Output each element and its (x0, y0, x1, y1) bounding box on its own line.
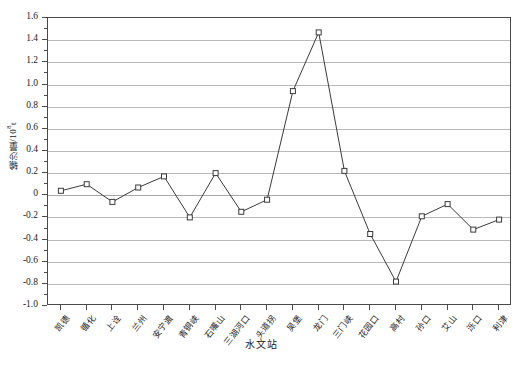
series-line (61, 32, 499, 281)
y-tick-label: 0.4 (26, 143, 38, 156)
data-point-marker (445, 202, 450, 207)
y-axis-minor-tick (0, 95, 47, 96)
chart-container: 输沙量/108t 1.61.41.21.00.80.60.40.20-0.2-0… (0, 0, 522, 367)
x-axis-tick (86, 305, 87, 310)
y-axis-minor-tick (0, 139, 47, 140)
x-axis-tick (215, 305, 216, 310)
y-axis-tick: 0.6 (0, 128, 47, 129)
data-point-marker (471, 227, 476, 232)
x-axis-tick (447, 305, 448, 310)
y-axis-tick: 1.0 (0, 84, 47, 85)
x-axis-label: 孙口 (414, 313, 433, 333)
y-axis-minor-tick (0, 250, 47, 251)
data-point-marker (136, 185, 141, 190)
x-axis-tick (369, 305, 370, 310)
plot-area (47, 17, 511, 305)
x-axis-tick (163, 305, 164, 310)
y-tick-label: 0 (33, 187, 38, 200)
y-axis-tick: 0.8 (0, 106, 47, 107)
y-axis-minor-tick (0, 272, 47, 273)
x-axis-tick (111, 305, 112, 310)
x-axis-tick (292, 305, 293, 310)
y-axis-minor-tick (0, 50, 47, 51)
y-axis-tick: 0.4 (0, 150, 47, 151)
x-axis-tick (137, 305, 138, 310)
x-axis-label: 兰州 (130, 313, 149, 333)
x-axis-tick (395, 305, 396, 310)
y-axis: 1.61.41.21.00.80.60.40.20-0.2-0.4-0.6-0.… (0, 0, 47, 367)
y-axis-tick: 1.6 (0, 17, 47, 18)
y-axis-minor-tick (0, 205, 47, 206)
x-axis-label: 艾山 (440, 313, 459, 333)
y-tick-label: -0.6 (23, 254, 38, 267)
y-tick-label: 1.6 (26, 10, 38, 23)
data-point-marker (110, 199, 115, 204)
y-tick-label: 0.2 (26, 165, 38, 178)
data-point-marker (239, 209, 244, 214)
x-axis-label: 上诠 (104, 313, 123, 333)
x-axis-label: 凯德 (53, 313, 72, 333)
x-axis-tick (343, 305, 344, 310)
y-tick-label: -0.2 (23, 209, 38, 222)
x-axis-tick (60, 305, 61, 310)
data-point-marker (394, 279, 399, 284)
y-axis-minor-tick (0, 228, 47, 229)
y-axis-minor-tick (0, 183, 47, 184)
data-point-marker (497, 217, 502, 222)
y-axis-tick: 0 (0, 194, 47, 195)
y-tick-label: 1.0 (26, 77, 38, 90)
y-axis-tick: 0.2 (0, 172, 47, 173)
data-point-marker (419, 214, 424, 219)
x-axis-tick (498, 305, 499, 310)
y-tick-label: 1.4 (26, 32, 38, 45)
y-axis-minor-tick (0, 28, 47, 29)
x-axis-label: 龙门 (311, 313, 330, 333)
y-tick-label: -0.8 (23, 276, 38, 289)
y-axis-minor-tick (0, 161, 47, 162)
x-axis-label: 泺口 (465, 313, 484, 333)
x-axis-tick (472, 305, 473, 310)
series-markers (58, 30, 501, 284)
x-axis-tick (189, 305, 190, 310)
y-tick-label: -1.0 (23, 298, 38, 311)
y-axis-tick: -0.2 (0, 216, 47, 217)
y-axis-minor-tick (0, 72, 47, 73)
data-point-marker (342, 168, 347, 173)
x-axis-tick (266, 305, 267, 310)
x-axis-label: 吴堡 (285, 313, 304, 333)
y-axis-tick: -0.8 (0, 283, 47, 284)
y-axis-tick: 1.2 (0, 61, 47, 62)
y-axis-minor-tick (0, 294, 47, 295)
data-point-marker (187, 215, 192, 220)
data-point-marker (58, 188, 63, 193)
y-axis-tick: 1.4 (0, 39, 47, 40)
x-axis-label: 利津 (491, 313, 510, 333)
data-point-marker (316, 30, 321, 35)
data-point-marker (162, 174, 167, 179)
x-axis-tick (421, 305, 422, 310)
y-axis-minor-tick (0, 117, 47, 118)
y-axis-tick: -1.0 (0, 305, 47, 306)
y-tick-label: 0.8 (26, 99, 38, 112)
data-point-marker (368, 232, 373, 237)
data-point-marker (290, 89, 295, 94)
y-axis-tick: -0.6 (0, 261, 47, 262)
y-tick-label: 1.2 (26, 54, 38, 67)
y-tick-label: -0.4 (23, 232, 38, 245)
data-series (48, 18, 512, 306)
x-axis-label: 循化 (79, 313, 98, 333)
y-axis-tick: -0.4 (0, 239, 47, 240)
x-axis-tick (240, 305, 241, 310)
data-point-marker (213, 171, 218, 176)
data-point-marker (265, 197, 270, 202)
data-point-marker (84, 182, 89, 187)
x-axis-title: 水文站 (0, 336, 522, 351)
x-axis-label: 高村 (388, 313, 407, 333)
y-tick-label: 0.6 (26, 121, 38, 134)
x-axis-tick (318, 305, 319, 310)
